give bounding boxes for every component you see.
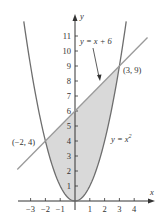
y-tick-label: 11 (63, 31, 71, 41)
parabola-equation-label: y = x2 (110, 133, 132, 144)
y-tick-label: 3 (67, 151, 71, 161)
point-label-neg2-4: (−2, 4) (12, 137, 35, 147)
x-axis-arrow-icon (148, 199, 155, 204)
y-tick-label: 6 (67, 106, 71, 116)
y-tick-label: 2 (67, 166, 71, 176)
chart: −3−2−11234 1234567891011 x y y = x + 6 y… (0, 0, 161, 221)
x-tick-label: −2 (41, 204, 50, 214)
annotation-arrow-line (93, 48, 99, 77)
y-tick-label: 1 (67, 181, 71, 191)
point-label-3-9: (3, 9) (123, 65, 142, 75)
shaded-region (45, 66, 119, 201)
y-axis-arrow-icon (73, 14, 78, 21)
x-tick-label: 3 (117, 204, 121, 214)
x-axis-label: x (149, 187, 154, 197)
x-tick-label: 1 (88, 204, 92, 214)
annotation-arrow-icon (97, 75, 102, 82)
y-tick-label: 7 (67, 91, 71, 101)
y-axis-label: y (79, 11, 84, 21)
y-tick-label: 5 (67, 121, 71, 131)
x-tick-label: 2 (102, 204, 106, 214)
y-tick-label: 9 (67, 61, 71, 71)
y-tick-label: 10 (63, 46, 72, 56)
x-tick-label: 4 (132, 204, 137, 214)
x-ticks: −3−2−11234 (26, 198, 137, 214)
line-equation-label: y = x + 6 (79, 36, 113, 46)
x-tick-label: −3 (26, 204, 35, 214)
y-tick-label: 8 (67, 76, 71, 86)
x-tick-label: −1 (56, 204, 65, 214)
